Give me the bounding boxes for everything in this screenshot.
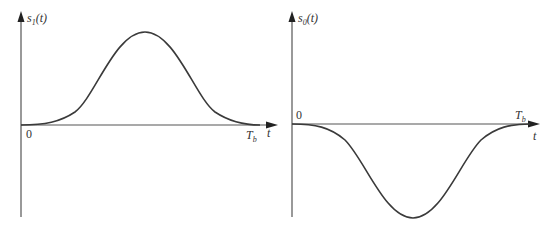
left-t-label: t — [267, 126, 271, 140]
right-tb-label: Tb — [515, 108, 526, 124]
left-origin-label: 0 — [26, 127, 32, 141]
right-origin-label: 0 — [296, 108, 302, 122]
left-pulse-curve — [21, 32, 260, 125]
right-pulse-curve — [292, 124, 530, 218]
right-y-label: s0(t) — [298, 11, 318, 27]
right-y-axis-arrow-icon — [289, 11, 296, 22]
left-y-axis-arrow-icon — [18, 11, 25, 22]
left-tb-label: Tb — [246, 128, 257, 144]
left-y-label: s1(t) — [27, 11, 47, 27]
signal-diagram: s1(t) 0 Tb t s0(t) 0 Tb t — [0, 0, 558, 231]
left-plot: s1(t) 0 Tb t — [18, 11, 279, 217]
right-t-label: t — [533, 129, 537, 143]
right-plot: s0(t) 0 Tb t — [289, 11, 541, 218]
